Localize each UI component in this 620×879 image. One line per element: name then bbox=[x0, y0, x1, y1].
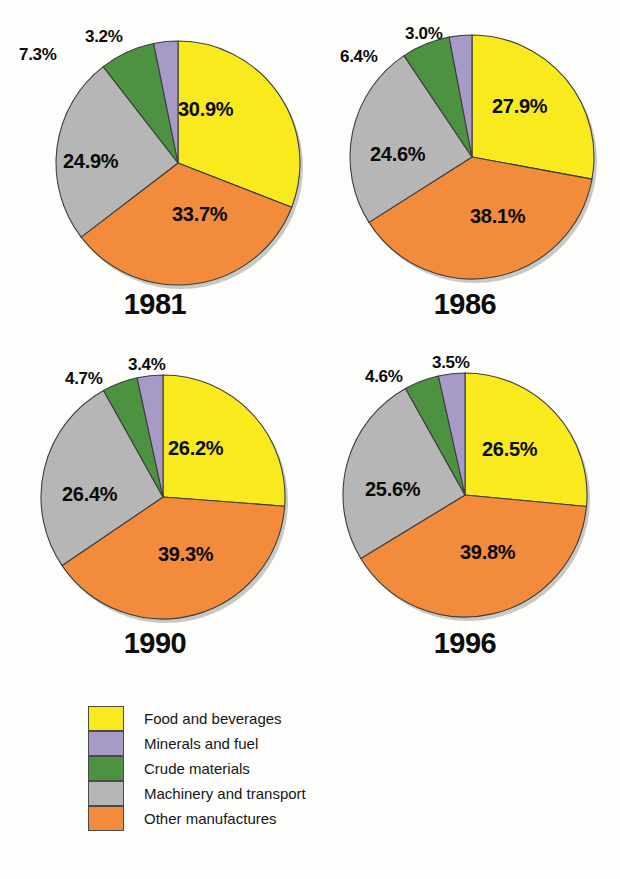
slice-value-label: 26.4% bbox=[62, 483, 117, 506]
legend-color-swatch bbox=[88, 731, 124, 756]
pie-chart-grid: 30.9%33.7%24.9%7.3%3.2%198127.9%38.1%24.… bbox=[0, 0, 620, 680]
slice-value-label: 24.9% bbox=[63, 150, 118, 173]
slice-value-label: 39.8% bbox=[460, 541, 515, 564]
slice-value-label: 39.3% bbox=[158, 543, 213, 566]
slice-value-label: 26.5% bbox=[482, 438, 537, 461]
pie-graphic bbox=[310, 0, 620, 300]
slice-value-label: 3.2% bbox=[85, 27, 123, 47]
slice-value-label: 6.4% bbox=[340, 47, 378, 67]
legend-item: Other manufactures bbox=[88, 806, 408, 831]
slice-value-label: 7.3% bbox=[19, 45, 57, 65]
legend-item-label: Food and beverages bbox=[144, 710, 282, 727]
legend-item: Minerals and fuel bbox=[88, 731, 408, 756]
slice-value-label: 26.2% bbox=[168, 437, 223, 460]
legend-item-label: Machinery and transport bbox=[144, 785, 306, 802]
slice-value-label: 4.7% bbox=[65, 369, 103, 389]
legend-item: Food and beverages bbox=[88, 706, 408, 731]
legend-color-swatch bbox=[88, 806, 124, 831]
legend-item-label: Other manufactures bbox=[144, 810, 277, 827]
pie-chart-1986: 27.9%38.1%24.6%6.4%3.0%1986 bbox=[310, 0, 620, 340]
pie-year-label: 1981 bbox=[0, 288, 310, 321]
pie-graphic bbox=[310, 345, 620, 645]
slice-value-label: 4.6% bbox=[365, 367, 403, 387]
pie-year-label: 1996 bbox=[310, 627, 620, 660]
slice-value-label: 3.4% bbox=[128, 355, 166, 375]
pie-year-label: 1990 bbox=[0, 627, 310, 660]
pie-chart-1990: 26.2%39.3%26.4%4.7%3.4%1990 bbox=[0, 345, 310, 685]
slice-value-label: 27.9% bbox=[492, 95, 547, 118]
legend-item: Machinery and transport bbox=[88, 781, 408, 806]
slice-value-label: 30.9% bbox=[178, 98, 233, 121]
slice-value-label: 3.0% bbox=[405, 24, 443, 44]
pie-graphic bbox=[0, 345, 310, 645]
legend-color-swatch bbox=[88, 756, 124, 781]
legend-item-label: Minerals and fuel bbox=[144, 735, 258, 752]
slice-value-label: 25.6% bbox=[365, 478, 420, 501]
pie-year-label: 1986 bbox=[310, 288, 620, 321]
slice-value-label: 38.1% bbox=[470, 205, 525, 228]
legend-color-swatch bbox=[88, 706, 124, 731]
legend-item: Crude materials bbox=[88, 756, 408, 781]
chart-legend: Food and beveragesMinerals and fuelCrude… bbox=[88, 706, 408, 831]
slice-value-label: 33.7% bbox=[172, 203, 227, 226]
pie-chart-1981: 30.9%33.7%24.9%7.3%3.2%1981 bbox=[0, 0, 310, 340]
legend-color-swatch bbox=[88, 781, 124, 806]
legend-item-label: Crude materials bbox=[144, 760, 250, 777]
slice-value-label: 3.5% bbox=[432, 353, 470, 373]
pie-chart-1996: 26.5%39.8%25.6%4.6%3.5%1996 bbox=[310, 345, 620, 685]
slice-value-label: 24.6% bbox=[370, 143, 425, 166]
